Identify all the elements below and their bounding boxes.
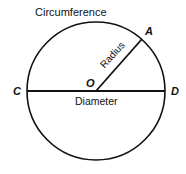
circumference-label: Circumference <box>35 7 107 18</box>
point-o-label: O <box>86 78 95 89</box>
diameter-label: Diameter <box>75 96 118 107</box>
point-c-label: C <box>13 86 21 97</box>
point-d-label: D <box>171 86 179 97</box>
point-a-label: A <box>145 26 153 37</box>
